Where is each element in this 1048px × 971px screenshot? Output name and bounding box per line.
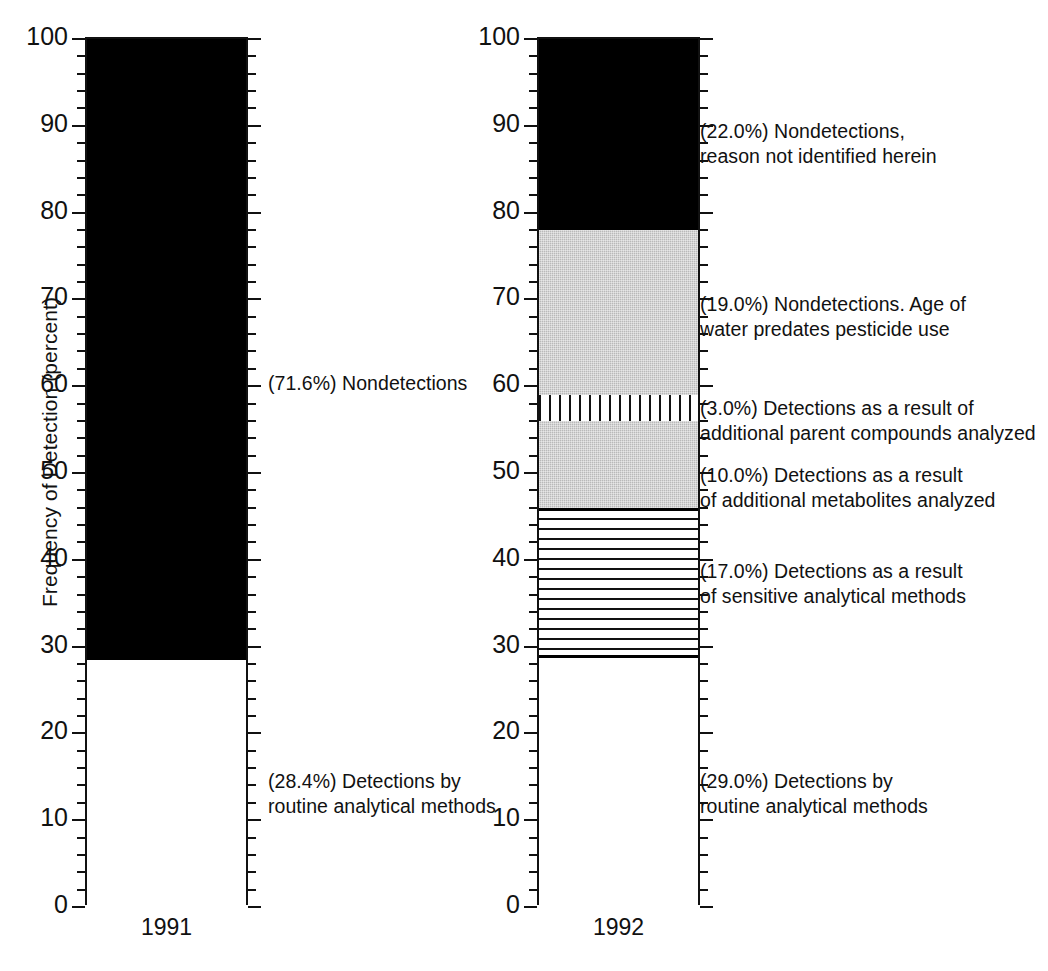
y-tick-minor	[248, 455, 256, 457]
y-tick-minor	[77, 715, 85, 717]
y-tick-label: 30	[442, 632, 520, 657]
y-tick-minor	[529, 715, 537, 717]
y-tick-major	[524, 732, 537, 734]
y-tick-minor	[248, 368, 256, 370]
y-tick-minor	[77, 73, 85, 75]
y-tick-minor	[700, 281, 708, 283]
y-tick-minor	[529, 194, 537, 196]
y-tick-minor	[248, 507, 256, 509]
y-tick-label: 10	[0, 805, 68, 830]
y-tick-minor	[700, 350, 708, 352]
y-tick-minor	[77, 698, 85, 700]
y-tick-major	[72, 906, 85, 908]
y-tick-minor	[529, 90, 537, 92]
annotation-1992-metabolites: (10.0%) Detections as a result of additi…	[700, 463, 995, 514]
y-tick-major	[72, 298, 85, 300]
y-tick-minor	[529, 160, 537, 162]
y-tick-major	[700, 38, 713, 40]
y-tick-minor	[77, 160, 85, 162]
y-tick-label: 80	[0, 198, 68, 223]
y-tick-minor	[529, 802, 537, 804]
y-tick-minor	[77, 350, 85, 352]
y-tick-minor	[77, 802, 85, 804]
x-axis-category-1991: 1991	[85, 914, 248, 941]
y-tick-minor	[700, 715, 708, 717]
y-tick-minor	[529, 177, 537, 179]
y-tick-minor	[700, 177, 708, 179]
y-tick-minor	[77, 576, 85, 578]
y-tick-minor	[248, 750, 256, 752]
y-tick-minor	[529, 837, 537, 839]
y-tick-major	[72, 819, 85, 821]
y-tick-minor	[529, 663, 537, 665]
y-tick-major	[524, 646, 537, 648]
y-tick-major	[248, 906, 261, 908]
x-axis-category-1992: 1992	[537, 914, 700, 941]
y-tick-label: 70	[0, 284, 68, 309]
y-tick-minor	[700, 90, 708, 92]
panel-1992: 1992	[537, 37, 700, 905]
y-tick-minor	[700, 73, 708, 75]
bar-segment	[87, 39, 246, 660]
y-tick-minor	[77, 437, 85, 439]
y-tick-minor	[529, 73, 537, 75]
y-tick-minor	[77, 455, 85, 457]
y-tick-minor	[529, 628, 537, 630]
y-tick-minor	[77, 55, 85, 57]
y-tick-minor	[700, 524, 708, 526]
y-tick-minor	[77, 784, 85, 786]
y-tick-minor	[248, 264, 256, 266]
y-tick-minor	[77, 281, 85, 283]
annotation-1992-parent-compounds: (3.0%) Detections as a result of additio…	[700, 396, 1036, 447]
y-tick-minor	[700, 680, 708, 682]
y-tick-minor	[77, 767, 85, 769]
y-tick-major	[72, 472, 85, 474]
y-tick-minor	[700, 750, 708, 752]
y-tick-label: 30	[0, 632, 68, 657]
y-tick-major	[700, 646, 713, 648]
y-tick-label: 80	[442, 198, 520, 223]
y-tick-minor	[529, 871, 537, 873]
y-tick-label: 0	[0, 892, 68, 917]
y-tick-minor	[529, 229, 537, 231]
y-tick-minor	[700, 889, 708, 891]
y-tick-label: 60	[0, 371, 68, 396]
annotation-1991-routine: (28.4%) Detections by routine analytical…	[268, 769, 496, 820]
y-tick-minor	[248, 802, 256, 804]
y-tick-minor	[529, 316, 537, 318]
y-tick-minor	[248, 576, 256, 578]
y-tick-minor	[77, 90, 85, 92]
segment-divider	[539, 508, 698, 511]
y-tick-label: 20	[0, 718, 68, 743]
y-tick-minor	[248, 854, 256, 856]
bar-segment	[539, 230, 698, 395]
segment-divider	[539, 655, 698, 658]
y-tick-major	[72, 38, 85, 40]
y-tick-major	[524, 38, 537, 40]
y-tick-minor	[248, 229, 256, 231]
y-tick-minor	[77, 871, 85, 873]
y-tick-minor	[700, 837, 708, 839]
y-tick-minor	[529, 541, 537, 543]
y-tick-major	[72, 732, 85, 734]
y-tick-minor	[248, 698, 256, 700]
y-tick-minor	[700, 264, 708, 266]
y-tick-minor	[700, 854, 708, 856]
y-tick-major	[524, 472, 537, 474]
y-tick-minor	[248, 420, 256, 422]
y-tick-minor	[77, 854, 85, 856]
y-tick-major	[248, 385, 261, 387]
y-tick-minor	[700, 541, 708, 543]
y-tick-minor	[248, 142, 256, 144]
y-tick-major	[248, 559, 261, 561]
y-tick-label: 100	[0, 24, 68, 49]
y-tick-major	[248, 646, 261, 648]
y-tick-minor	[77, 628, 85, 630]
y-tick-minor	[529, 489, 537, 491]
y-tick-minor	[77, 889, 85, 891]
bar-segment	[539, 395, 698, 421]
y-tick-minor	[700, 229, 708, 231]
y-tick-minor	[529, 524, 537, 526]
y-tick-minor	[529, 333, 537, 335]
y-tick-minor	[529, 680, 537, 682]
